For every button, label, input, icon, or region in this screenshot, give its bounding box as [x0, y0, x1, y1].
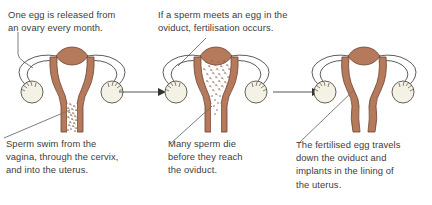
figure-root: One egg is released from an ovary every …: [0, 0, 432, 205]
left-ovary: [165, 81, 187, 103]
panel-2-caption-bottom: Many sperm die before they reach the ovi…: [168, 137, 298, 177]
panel-egg-release: One egg is released from an ovary every …: [0, 0, 144, 205]
left-ovary: [21, 81, 43, 103]
panel-2-caption-top: If a sperm meets an egg in the oviduct, …: [158, 8, 308, 34]
panel-implantation: The fertilised egg travels down the ovid…: [288, 0, 432, 205]
panel-3-caption-bottom: The fertilised egg travels down the ovid…: [296, 138, 432, 191]
right-ovary: [245, 81, 267, 103]
right-ovary: [392, 81, 414, 103]
panel-1-caption-bottom: Sperm swim from the vagina, through the …: [6, 137, 146, 177]
panel-sperm-ascent: If a sperm meets an egg in the oviduct, …: [144, 0, 288, 205]
